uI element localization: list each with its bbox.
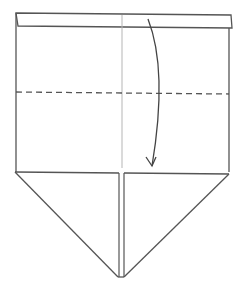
bottom-triangle-flaps bbox=[15, 172, 229, 277]
fold-down-arrow-icon bbox=[146, 19, 159, 166]
origami-diagram bbox=[0, 0, 241, 292]
top-folded-strip bbox=[16, 13, 232, 28]
left-flap-edge bbox=[15, 172, 118, 277]
right-flap-edge bbox=[124, 174, 229, 277]
center-slit bbox=[119, 173, 124, 277]
flap-top-edge bbox=[15, 172, 229, 174]
